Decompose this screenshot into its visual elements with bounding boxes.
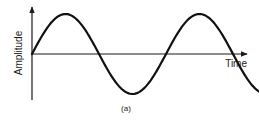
figure-caption: (a)	[121, 104, 131, 113]
y-axis-label: Amplitude	[13, 30, 24, 75]
x-axis-label: Time	[225, 58, 247, 69]
sine-wave-diagram: Amplitude Time (a)	[0, 0, 259, 121]
